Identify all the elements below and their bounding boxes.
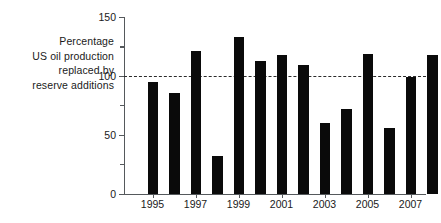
bar-1996 xyxy=(169,93,180,194)
x-tick-label-2005: 2005 xyxy=(356,199,379,210)
y-tick-label-150: 150 xyxy=(98,12,116,23)
reference-line-100 xyxy=(124,76,426,77)
y-tick-50 xyxy=(119,135,124,136)
x-axis-line xyxy=(124,194,426,195)
x-tick-label-1997: 1997 xyxy=(184,199,207,210)
y-tick-0 xyxy=(119,194,124,195)
y-tick-125 xyxy=(120,46,124,47)
y-tick-150 xyxy=(119,17,124,18)
bar-2003 xyxy=(320,123,331,194)
y-axis-caption-line-1: Percentage xyxy=(6,34,114,49)
bar-2001 xyxy=(277,55,288,194)
bar-1999 xyxy=(234,37,245,194)
y-tick-label-0: 0 xyxy=(110,189,116,200)
x-tick-label-2007: 2007 xyxy=(399,199,422,210)
bar-2007 xyxy=(406,77,417,194)
bar-2005 xyxy=(363,54,374,194)
y-tick-75 xyxy=(120,105,124,106)
bar-2006 xyxy=(384,128,395,194)
x-tick-label-2001: 2001 xyxy=(270,199,293,210)
y-axis-line xyxy=(124,17,125,195)
y-tick-label-100: 100 xyxy=(98,71,116,82)
plot-area: 150 100 50 0 xyxy=(124,17,426,194)
bar-2008 xyxy=(427,55,438,194)
bar-1998 xyxy=(212,156,223,194)
x-tick-label-2003: 2003 xyxy=(313,199,336,210)
x-tick-label-1995: 1995 xyxy=(141,199,164,210)
y-tick-25 xyxy=(120,164,124,165)
x-tick-label-1999: 1999 xyxy=(227,199,250,210)
y-axis-caption: Percentage US oil production replaced by… xyxy=(6,34,114,92)
bar-2002 xyxy=(298,65,309,194)
bar-2000 xyxy=(255,61,266,194)
bar-chart-figure: Percentage US oil production replaced by… xyxy=(0,0,441,223)
bar-1997 xyxy=(191,51,202,194)
bar-2004 xyxy=(341,109,352,194)
bar-1995 xyxy=(148,82,159,194)
y-axis-caption-line-2: US oil production xyxy=(6,49,114,64)
y-tick-label-50: 50 xyxy=(104,130,116,141)
